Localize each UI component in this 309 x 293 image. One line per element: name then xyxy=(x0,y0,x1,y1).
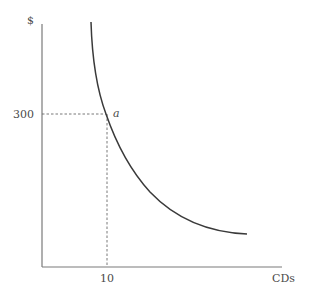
demand-chart: $ 300 a 10 CDs xyxy=(0,0,309,293)
x-tick-label: 10 xyxy=(100,273,114,284)
y-axis-label: $ xyxy=(27,15,34,26)
x-axis-label: CDs xyxy=(272,273,295,284)
y-tick-label: 300 xyxy=(13,109,34,120)
demand-curve xyxy=(91,22,247,234)
chart-canvas xyxy=(0,0,309,293)
point-label: a xyxy=(113,108,120,119)
